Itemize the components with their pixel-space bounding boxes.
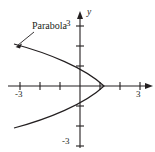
y-axis-arrow-icon <box>77 11 83 19</box>
plot-canvas <box>0 0 155 152</box>
parabola-callout-label: Parabola <box>32 21 67 31</box>
y-axis-label: y <box>87 8 91 18</box>
y-tick-label-3: 3 <box>66 19 71 28</box>
x-axis-arrow-icon <box>145 83 153 89</box>
x-tick-label--3: -3 <box>15 90 23 99</box>
callout-leader-line <box>18 32 35 46</box>
parabola-figure: Parabola y -3 3 3 -3 <box>0 0 155 152</box>
y-tick-label--3: -3 <box>62 137 70 146</box>
x-tick-label-3: 3 <box>136 90 141 99</box>
